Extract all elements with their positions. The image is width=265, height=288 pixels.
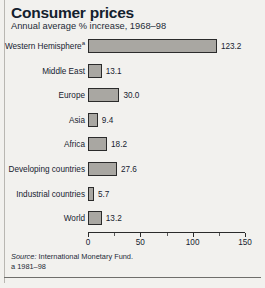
bar <box>88 187 94 201</box>
bottom-rule <box>4 277 261 278</box>
source-prefix: Source: <box>11 252 36 261</box>
category-label: Western Hemispherea <box>5 42 85 51</box>
x-axis-minor-tick <box>167 233 168 236</box>
x-axis-tick <box>245 233 246 237</box>
x-axis-minor-tick <box>219 233 220 236</box>
category-label: Europe <box>59 91 85 100</box>
x-axis-tick <box>88 233 89 237</box>
bar-value-label: 13.1 <box>106 66 122 75</box>
bar <box>88 88 119 102</box>
bar-value-label: 123.2 <box>221 42 242 51</box>
category-label: Asia <box>69 115 85 124</box>
consumer-prices-chart-figure: Consumer prices Annual average % increas… <box>0 0 265 288</box>
category-label: Industrial countries <box>16 189 85 198</box>
footnote: a 1981–98 <box>11 262 46 271</box>
x-axis-tick-label: 150 <box>238 238 252 247</box>
bar-row: Asia9.4 <box>0 108 265 132</box>
bar <box>88 64 102 78</box>
category-footnote-marker: a <box>82 40 85 46</box>
bar <box>88 211 102 225</box>
category-label: Africa <box>64 140 85 149</box>
source-text: International Monetary Fund. <box>39 252 134 261</box>
bar-row: Western Hemispherea123.2 <box>0 34 265 58</box>
category-label: World <box>64 214 85 223</box>
category-label: Developing countries <box>9 165 85 174</box>
source-line: Source: International Monetary Fund. <box>11 252 133 261</box>
bar-value-label: 27.6 <box>121 165 137 174</box>
x-axis-tick-label: 100 <box>186 238 200 247</box>
bar-row: Europe30.0 <box>0 83 265 107</box>
category-label: Middle East <box>42 66 85 75</box>
chart-subtitle: Annual average % increase, 1968–98 <box>11 21 166 31</box>
bar-value-label: 18.2 <box>111 140 127 149</box>
x-axis-tick-label: 0 <box>86 238 91 247</box>
bar-value-label: 30.0 <box>123 91 139 100</box>
bar <box>88 162 117 176</box>
bar <box>88 113 98 127</box>
x-axis-tick-label: 50 <box>136 238 145 247</box>
plot-area: Western Hemispherea123.2Middle East13.1E… <box>0 34 265 239</box>
axis-baseline <box>88 232 245 233</box>
bar-row: Industrial countries5.7 <box>0 182 265 206</box>
bar-row: Developing countries27.6 <box>0 157 265 181</box>
bar-row: Africa18.2 <box>0 132 265 156</box>
chart-title: Consumer prices <box>11 4 134 22</box>
bar-row: Middle East13.1 <box>0 59 265 83</box>
x-axis-tick <box>140 233 141 237</box>
bar-value-label: 9.4 <box>102 115 113 124</box>
bar-row: World13.2 <box>0 206 265 230</box>
bar-value-label: 5.7 <box>98 189 109 198</box>
bar-value-label: 13.2 <box>106 214 122 223</box>
x-axis-minor-tick <box>114 233 115 236</box>
bar <box>88 137 107 151</box>
x-axis-tick <box>193 233 194 237</box>
bar <box>88 39 217 53</box>
